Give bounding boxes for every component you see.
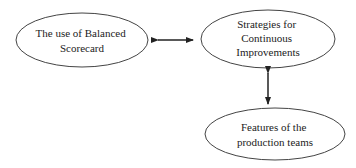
node-continuous-improvements: Strategies for Continuous Improvements [201, 10, 335, 68]
node-label-line: Improvements [236, 46, 300, 58]
svg-text:Features of the producti: Features of the production teams [237, 121, 313, 148]
diagram-canvas: The use of Balanced Scorecard Strategies… [0, 0, 356, 168]
node-label-line: The use of Balanced [36, 27, 127, 39]
svg-text:The use of Balanced Scor: The use of Balanced Scorecard [36, 27, 129, 54]
node-label-line: Strategies for [237, 18, 296, 30]
svg-text:Strategies for Continuou: Strategies for Continuous Improvements [236, 18, 300, 58]
node-label-line: Continuous [241, 32, 292, 44]
node-label-line: Scorecard [60, 42, 104, 54]
node-production-teams: Features of the production teams [205, 108, 345, 160]
node-label-line: Features of the [241, 121, 306, 133]
node-label-line: production teams [237, 136, 313, 148]
node-balanced-scorecard: The use of Balanced Scorecard [16, 13, 148, 67]
